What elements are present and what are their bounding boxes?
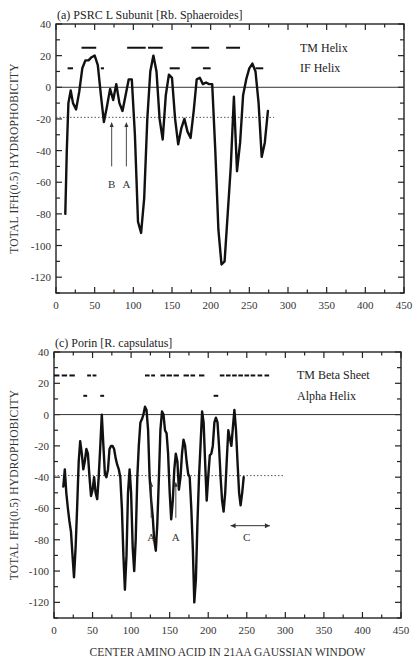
y-tick-label: -80 [34, 534, 49, 546]
x-tick-label: 0 [51, 624, 57, 636]
x-tick-label: 0 [53, 299, 59, 311]
annotation-label: C [243, 531, 250, 543]
y-tick-label: 0 [44, 409, 50, 421]
annotation-label: A [172, 531, 180, 543]
annotation-label: A [122, 178, 130, 190]
x-tick-label: 300 [277, 624, 294, 636]
y-tick-label: -20 [36, 113, 51, 125]
annotation-label: A [147, 531, 155, 543]
x-axis-label: CENTER AMINO ACID IN 21AA GAUSSIAN WINDO… [90, 646, 366, 658]
hydrophobicity-figure: (a) PSRC L Subunit [Rb. Sphaeroides]4020… [0, 0, 418, 669]
y-tick-label: 20 [38, 377, 50, 389]
x-tick-label: 100 [125, 299, 142, 311]
x-tick-label: 200 [202, 299, 219, 311]
y-tick-label: -40 [34, 471, 49, 483]
x-tick-label: 450 [396, 299, 413, 311]
chart-psrc-l-subunit: (a) PSRC L Subunit [Rb. Sphaeroides]4020… [8, 8, 413, 311]
x-tick-label: 350 [316, 624, 333, 636]
chart-title: (a) PSRC L Subunit [Rb. Sphaeroides] [57, 8, 243, 22]
x-tick-label: 50 [87, 624, 99, 636]
legend-label: TM Helix [300, 41, 348, 55]
x-tick-label: 400 [354, 624, 371, 636]
y-tick-label: -100 [29, 565, 50, 577]
y-tick-label: 40 [40, 18, 52, 30]
chart-porin: (c) Porin [R. capsulatus]40200-20-40-60-… [8, 336, 410, 658]
y-tick-label: -80 [36, 208, 51, 220]
x-tick-label: 100 [123, 624, 140, 636]
x-tick-label: 350 [318, 299, 335, 311]
y-tick-label: 40 [38, 346, 50, 358]
y-tick-label: -120 [29, 596, 50, 608]
x-tick-label: 150 [164, 299, 181, 311]
y-tick-label: -100 [31, 240, 52, 252]
y-axis-label: TOTAL IFH(0.5) HYDROPHOBICITY [8, 389, 21, 580]
legend-label: IF Helix [300, 61, 340, 75]
legend-label: TM Beta Sheet [297, 368, 370, 382]
annotation-label: B [108, 178, 115, 190]
y-tick-label: 20 [40, 50, 52, 62]
x-tick-label: 400 [357, 299, 374, 311]
legend-label: Alpha Helix [297, 389, 356, 403]
y-tick-label: 0 [46, 81, 52, 93]
x-tick-label: 450 [393, 624, 410, 636]
x-tick-label: 250 [241, 299, 258, 311]
arrowhead-icon [124, 122, 128, 127]
y-tick-label: -60 [36, 176, 51, 188]
x-tick-label: 200 [200, 624, 217, 636]
x-tick-label: 250 [239, 624, 256, 636]
x-tick-label: 300 [280, 299, 297, 311]
hydrophobicity-curve [63, 407, 243, 603]
chart-title: (c) Porin [R. capsulatus] [55, 336, 172, 350]
y-tick-label: -60 [34, 502, 49, 514]
y-tick-label: -40 [36, 145, 51, 157]
y-tick-label: -120 [31, 271, 52, 283]
x-tick-label: 150 [161, 624, 178, 636]
x-tick-label: 50 [89, 299, 101, 311]
y-axis-label: TOTAL IFH(0.5) HYDROPHOBICITY [8, 63, 21, 254]
arrowhead-icon [110, 122, 114, 127]
y-tick-label: -20 [34, 440, 49, 452]
